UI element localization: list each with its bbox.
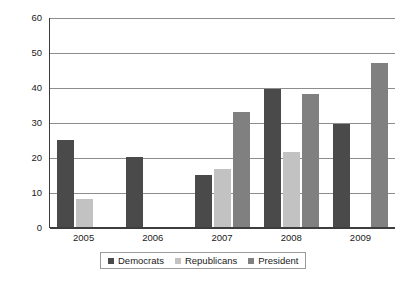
y-axis-tick-label: 0 bbox=[22, 223, 42, 233]
bar-group-2009 bbox=[326, 18, 395, 227]
bar-group-2006 bbox=[119, 18, 188, 227]
bar-slot bbox=[233, 18, 250, 227]
x-axis-tick-labels: 20052006200720082009 bbox=[49, 231, 395, 245]
bar-group-2007 bbox=[188, 18, 257, 227]
bar-slot bbox=[95, 18, 112, 227]
bar-slot bbox=[145, 18, 162, 227]
x-axis-tick-label-2006: 2006 bbox=[118, 231, 187, 245]
x-axis-tick-label-2008: 2008 bbox=[257, 231, 326, 245]
legend-swatch-icon-democrats bbox=[108, 258, 114, 264]
legend-item-president[interactable]: President bbox=[248, 255, 298, 266]
bar-president-2009[interactable] bbox=[371, 63, 388, 228]
gridline bbox=[50, 228, 395, 229]
bar-democrats-2006[interactable] bbox=[126, 157, 143, 227]
x-axis-tick-label-2007: 2007 bbox=[187, 231, 256, 245]
plot-area bbox=[49, 18, 395, 228]
y-axis-tick-label: 40 bbox=[22, 83, 42, 93]
x-axis-tick-label-2009: 2009 bbox=[326, 231, 395, 245]
bar-president-2008[interactable] bbox=[302, 94, 319, 227]
bar-slot bbox=[371, 18, 388, 227]
y-axis-tick-labels: 6050403020100 bbox=[22, 18, 42, 228]
bar-group-2008 bbox=[257, 18, 326, 227]
bar-republicans-2007[interactable] bbox=[214, 169, 231, 227]
bar-slot bbox=[352, 18, 369, 227]
bar-democrats-2008[interactable] bbox=[264, 89, 281, 227]
bar-slot bbox=[164, 18, 181, 227]
x-axis-tick-label-2005: 2005 bbox=[49, 231, 118, 245]
bar-slot bbox=[302, 18, 319, 227]
legend-label: Democrats bbox=[118, 255, 164, 266]
bar-democrats-2007[interactable] bbox=[195, 175, 212, 228]
bar-slot bbox=[57, 18, 74, 227]
bar-democrats-2009[interactable] bbox=[333, 124, 350, 227]
bar-democrats-2005[interactable] bbox=[57, 140, 74, 228]
bar-republicans-2005[interactable] bbox=[76, 199, 93, 227]
bar-slot bbox=[333, 18, 350, 227]
bar-slot bbox=[76, 18, 93, 227]
legend-item-democrats[interactable]: Democrats bbox=[108, 255, 164, 266]
y-axis-tick-label: 50 bbox=[22, 48, 42, 58]
chart-legend: DemocratsRepublicansPresident bbox=[100, 252, 306, 269]
legend-item-republicans[interactable]: Republicans bbox=[175, 255, 237, 266]
y-axis-tick-label: 20 bbox=[22, 153, 42, 163]
legend-swatch-icon-republicans bbox=[175, 258, 181, 264]
bar-slot bbox=[214, 18, 231, 227]
bar-group-2005 bbox=[50, 18, 119, 227]
bar-slot bbox=[264, 18, 281, 227]
bar-groups bbox=[50, 18, 395, 227]
bar-slot bbox=[195, 18, 212, 227]
legend-label: President bbox=[258, 255, 298, 266]
y-axis-tick-label: 30 bbox=[22, 118, 42, 128]
y-axis-tick-label: 10 bbox=[22, 188, 42, 198]
bar-slot bbox=[283, 18, 300, 227]
bar-republicans-2008[interactable] bbox=[283, 152, 300, 227]
y-axis-tick-label: 60 bbox=[22, 13, 42, 23]
legend-label: Republicans bbox=[185, 255, 237, 266]
bar-chart: Percent of Cases 6050403020100 200520062… bbox=[0, 0, 406, 284]
legend-swatch-icon-president bbox=[248, 258, 254, 264]
bar-president-2007[interactable] bbox=[233, 112, 250, 228]
bar-slot bbox=[126, 18, 143, 227]
